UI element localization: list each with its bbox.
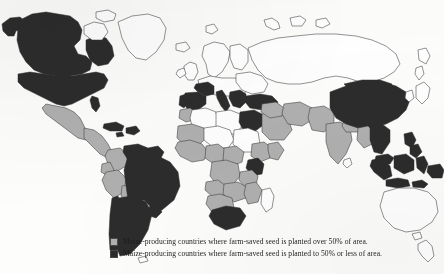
- legend-item-up-to-50: Maize-producing countries where farm-sav…: [110, 248, 410, 260]
- region-novaya-zemlya: [264, 18, 280, 30]
- region-scandinavia: [202, 42, 230, 78]
- region-arctic-islands-far-east: [316, 18, 330, 28]
- region-jamaica: [116, 132, 124, 137]
- region-sakhalin: [415, 66, 424, 80]
- region-mozambique: [244, 182, 262, 204]
- maize-farm-saved-seed-world-map: .ol{fill:#ffffff;stroke:#3a3a3a;stroke-w…: [0, 0, 444, 274]
- legend-label-over-50: Maize-producing countries where farm-sav…: [123, 236, 368, 247]
- region-lesser-sunda: [412, 180, 428, 188]
- region-philippines-south: [410, 144, 422, 158]
- region-japan: [416, 82, 430, 104]
- region-thailand-vietnam: [370, 124, 390, 154]
- region-svalbard: [206, 24, 218, 34]
- region-arctic-islands-east: [290, 16, 306, 26]
- region-cuba: [103, 122, 124, 131]
- region-java: [386, 178, 410, 188]
- region-somalia: [268, 142, 284, 160]
- region-papua-new-guinea: [427, 164, 444, 178]
- world-map-graphic: .ol{fill:#ffffff;stroke:#3a3a3a;stroke-w…: [0, 0, 444, 274]
- region-mexico: [42, 104, 88, 140]
- region-canada: [17, 12, 92, 76]
- region-spain: [184, 92, 206, 110]
- region-russia: [248, 34, 400, 84]
- region-sri-lanka: [343, 158, 352, 168]
- light-gray-swatch-icon: [110, 238, 118, 246]
- dark-gray-swatch-icon: [110, 250, 118, 258]
- region-ellesmere: [96, 10, 116, 22]
- region-west-africa-coast: [175, 140, 208, 162]
- region-ireland: [176, 68, 186, 78]
- region-tasmania: [412, 232, 422, 240]
- region-balkans-greece: [229, 90, 246, 108]
- map-legend: Maize-producing countries where farm-sav…: [110, 236, 410, 260]
- legend-label-up-to-50: Maize-producing countries where farm-sav…: [123, 248, 382, 259]
- region-hispaniola: [126, 126, 140, 135]
- region-iceland: [176, 42, 190, 52]
- region-australia: [380, 188, 438, 232]
- region-borneo: [394, 154, 414, 174]
- region-greenland: [118, 14, 166, 60]
- region-british-isles: [184, 62, 198, 80]
- legend-item-over-50: Maize-producing countries where farm-sav…: [110, 236, 410, 248]
- region-sulawesi: [416, 156, 428, 174]
- region-baffin-island: [84, 22, 108, 40]
- region-new-zealand: [418, 240, 434, 262]
- region-finland-baltic: [230, 44, 248, 70]
- region-kamchatka: [418, 48, 430, 64]
- region-south-africa: [209, 206, 246, 230]
- region-united-states-florida: [90, 96, 100, 112]
- region-madagascar: [261, 188, 274, 212]
